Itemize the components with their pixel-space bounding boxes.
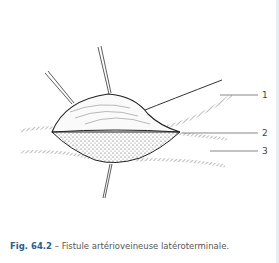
suture-thread xyxy=(105,164,112,198)
suture-thread xyxy=(101,46,111,93)
anastomosis xyxy=(52,130,180,163)
figure-caption: Fig. 64.2 – Fistule artérioveineuse laté… xyxy=(10,241,229,251)
fistula-drawing: 1 2 3 xyxy=(0,0,275,240)
vessel-1 xyxy=(140,80,222,112)
suture-thread xyxy=(103,164,110,198)
page-edge-bar xyxy=(276,0,279,263)
suture-thread xyxy=(48,71,74,103)
suture-thread xyxy=(45,73,72,104)
label-1: 1 xyxy=(262,90,268,100)
figure-illustration: 1 2 3 xyxy=(0,0,275,240)
caption-separator: – xyxy=(52,241,62,251)
artery-upper-right xyxy=(175,133,227,139)
label-2: 2 xyxy=(262,128,268,138)
artery-upper xyxy=(20,128,55,131)
figure-number: Fig. 64.2 xyxy=(10,241,52,251)
suture-thread xyxy=(98,47,109,94)
artery-lower-right xyxy=(135,160,225,166)
caption-text: Fistule artérioveineuse latéroterminale. xyxy=(62,241,229,251)
label-3: 3 xyxy=(262,146,268,156)
